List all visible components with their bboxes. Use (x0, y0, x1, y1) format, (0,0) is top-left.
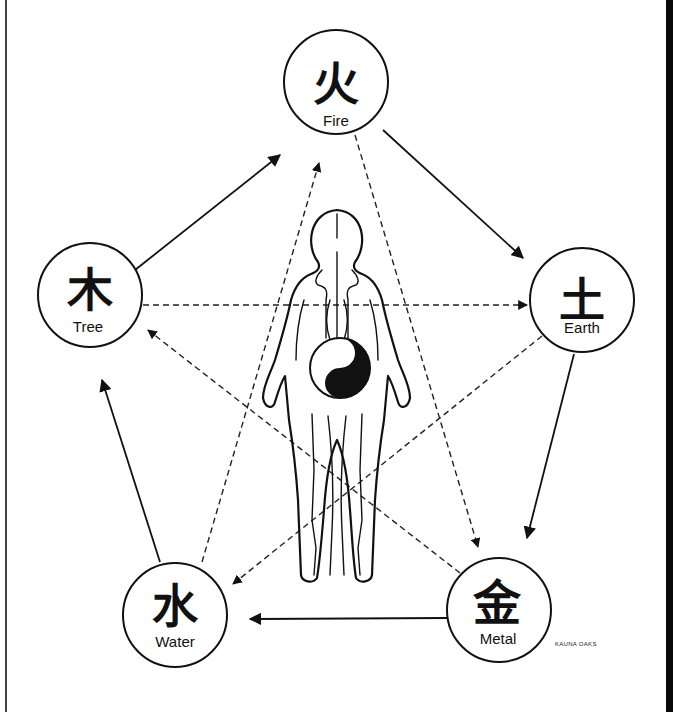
left-arm-channel (296, 300, 304, 360)
arrow-tree-to-fire (135, 155, 280, 270)
node-tree: 木 Tree (38, 243, 142, 347)
left-leg-channel-inner (328, 416, 333, 575)
water-glyph: 水 (152, 579, 199, 633)
earth-label: Earth (564, 319, 600, 336)
right-arm-channel (370, 300, 378, 360)
arrow-metal-to-tree (148, 330, 460, 573)
tree-glyph: 木 (67, 263, 113, 317)
metal-label: Metal (480, 630, 517, 647)
left-leg-channel-outer (312, 414, 316, 575)
human-figure (263, 210, 410, 582)
node-fire: 火 Fire (284, 30, 388, 134)
right-leg-channel-outer (358, 414, 362, 575)
water-label: Water (155, 633, 194, 650)
left-channel (316, 270, 327, 338)
fire-label: Fire (323, 112, 349, 129)
node-water: 水 Water (123, 563, 227, 667)
inner-right-channel (344, 300, 347, 340)
tree-label: Tree (73, 318, 103, 335)
yin-yang-symbol (310, 338, 370, 398)
right-channel (347, 270, 358, 338)
node-metal: 金 Metal (447, 558, 551, 662)
artist-signature: KAUNA OAKS (555, 641, 597, 647)
arrow-water-to-tree (102, 380, 160, 562)
fire-glyph: 火 (313, 57, 359, 111)
arrow-metal-to-water (250, 618, 447, 619)
metal-glyph: 金 (472, 575, 522, 631)
diagram-canvas: 火 Fire 土 Earth 金 Metal 水 Water 木 Tree KA… (0, 0, 673, 712)
arrow-earth-to-metal (527, 354, 574, 538)
node-earth: 土 Earth (530, 248, 634, 352)
arrow-fire-to-metal (355, 135, 478, 547)
five-elements-diagram: 火 Fire 土 Earth 金 Metal 水 Water 木 Tree (0, 0, 673, 712)
arrow-earth-to-water (233, 336, 542, 584)
arrow-fire-to-earth (383, 130, 523, 258)
inner-left-channel (327, 300, 330, 340)
arrow-water-to-fire (202, 163, 319, 562)
